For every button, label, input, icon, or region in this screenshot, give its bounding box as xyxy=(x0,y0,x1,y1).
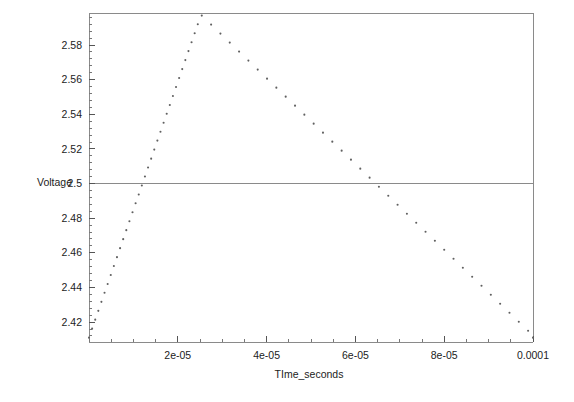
data-point xyxy=(135,202,137,204)
data-point xyxy=(91,328,93,330)
x-axis-ticks xyxy=(89,336,533,342)
chart-figure: 2e-054e-056e-058e-050.0001 2.422.442.462… xyxy=(0,0,574,402)
data-point xyxy=(138,193,140,195)
data-point xyxy=(406,213,408,215)
data-point xyxy=(266,78,268,80)
data-point xyxy=(275,87,277,89)
plot-frame xyxy=(89,13,533,342)
data-point xyxy=(110,274,112,276)
data-point xyxy=(131,211,133,213)
data-point xyxy=(294,105,296,107)
data-point xyxy=(387,195,389,197)
data-point xyxy=(103,292,105,294)
data-point xyxy=(331,141,333,143)
data-series-voltage xyxy=(88,15,534,339)
data-point xyxy=(122,238,124,240)
data-point xyxy=(201,15,203,17)
data-point xyxy=(210,24,212,26)
data-point xyxy=(88,337,90,339)
data-point xyxy=(187,50,189,52)
data-point xyxy=(229,42,231,44)
data-point xyxy=(175,86,177,88)
data-point xyxy=(378,186,380,188)
data-point xyxy=(184,59,186,61)
data-point xyxy=(166,113,168,115)
y-tick-label: 2.46 xyxy=(62,246,83,258)
x-tick-label: 4e-05 xyxy=(253,349,280,361)
data-point xyxy=(128,220,130,222)
data-point xyxy=(163,122,165,124)
data-point xyxy=(141,184,143,186)
data-point xyxy=(359,168,361,170)
data-point xyxy=(107,283,109,285)
data-point xyxy=(153,149,155,151)
y-tick-label: 2.52 xyxy=(62,143,83,155)
data-point xyxy=(181,68,183,70)
data-point xyxy=(159,131,161,133)
data-point xyxy=(125,229,127,231)
data-point xyxy=(169,104,171,106)
data-point xyxy=(191,41,193,43)
data-point xyxy=(527,330,529,332)
data-point xyxy=(518,321,520,323)
data-point xyxy=(94,319,96,321)
data-point xyxy=(322,132,324,134)
voltage-vs-time-plot: 2e-054e-056e-058e-050.0001 2.422.442.462… xyxy=(0,0,574,402)
data-point xyxy=(238,51,240,53)
data-point xyxy=(116,256,118,258)
y-tick-label: 2.56 xyxy=(62,73,83,85)
data-point xyxy=(471,276,473,278)
data-point xyxy=(178,77,180,79)
data-point xyxy=(313,123,315,125)
x-tick-label: 2e-05 xyxy=(164,349,191,361)
data-point xyxy=(113,265,115,267)
x-tick-label: 8e-05 xyxy=(431,349,458,361)
data-point xyxy=(499,303,501,305)
data-point xyxy=(415,222,417,224)
data-point xyxy=(341,150,343,152)
data-point xyxy=(480,285,482,287)
x-tick-label: 6e-05 xyxy=(342,349,369,361)
data-point xyxy=(369,177,371,179)
data-point xyxy=(350,159,352,161)
data-point xyxy=(397,204,399,206)
data-point xyxy=(257,69,259,71)
data-point xyxy=(247,60,249,62)
data-point xyxy=(147,166,149,168)
data-point xyxy=(443,249,445,251)
data-point xyxy=(194,32,196,34)
y-axis-ticks xyxy=(89,17,95,336)
data-point xyxy=(285,96,287,98)
y-axis-title: Voltage xyxy=(37,176,72,188)
data-point xyxy=(172,95,174,97)
y-tick-label: 2.44 xyxy=(62,281,83,293)
data-point xyxy=(100,301,102,303)
y-tick-label: 2.48 xyxy=(62,212,83,224)
data-point xyxy=(150,158,152,160)
data-point xyxy=(97,310,99,312)
data-point xyxy=(452,258,454,260)
y-tick-label: 2.54 xyxy=(62,108,83,120)
data-point xyxy=(197,23,199,25)
data-point xyxy=(144,175,146,177)
data-point xyxy=(219,33,221,35)
data-point xyxy=(508,312,510,314)
x-tick-label: 0.0001 xyxy=(517,349,549,361)
x-axis-title: TIme_seconds xyxy=(275,368,344,380)
data-point xyxy=(156,140,158,142)
data-point xyxy=(532,337,534,339)
data-point xyxy=(425,231,427,233)
data-point xyxy=(490,294,492,296)
x-axis-tick-labels: 2e-054e-056e-058e-050.0001 xyxy=(164,349,549,361)
y-tick-label: 2.58 xyxy=(62,39,83,51)
data-point xyxy=(462,267,464,269)
y-tick-label: 2.42 xyxy=(62,316,83,328)
data-point xyxy=(303,114,305,116)
data-point xyxy=(119,247,121,249)
data-point xyxy=(434,240,436,242)
